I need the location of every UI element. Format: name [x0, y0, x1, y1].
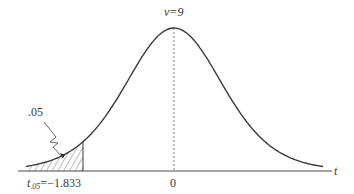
critical-subscript: .05 [30, 182, 40, 191]
t-distribution-chart [0, 0, 354, 194]
area-label: .05 [28, 106, 43, 118]
x-axis-label: t [334, 165, 337, 177]
x-tick-0: 0 [170, 177, 176, 189]
critical-value: −1.833 [47, 176, 81, 190]
density-curve [26, 28, 323, 167]
critical-value-label: t.05=−1.833 [27, 177, 81, 191]
area-pointer-arrow [44, 122, 63, 158]
df-label: ν=9 [164, 6, 183, 18]
